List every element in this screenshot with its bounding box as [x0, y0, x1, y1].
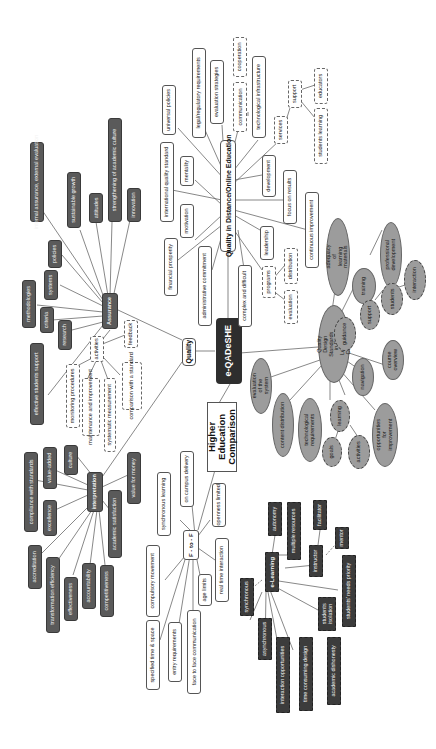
node-programs[interactable]: programs	[262, 266, 276, 298]
node-academic-dishonesty[interactable]: academic dishonesty	[327, 637, 341, 705]
node-training[interactable]: training	[352, 268, 376, 304]
node-learning[interactable]: learning	[330, 400, 350, 432]
node-focus-on-results[interactable]: focus on results	[283, 170, 297, 224]
node-entry-requirements[interactable]: entry requirements	[168, 622, 182, 682]
node-criteria[interactable]: criteria	[40, 307, 54, 333]
node-time-consuming-design[interactable]: time consuming design	[299, 637, 313, 711]
node-systems[interactable]: systems	[44, 270, 58, 300]
node-cooperation[interactable]: cooperation	[233, 37, 247, 77]
node-students-isolation[interactable]: students isolation	[318, 597, 336, 631]
node-interpretation[interactable]: interpretation	[87, 472, 103, 512]
node-competitiveness[interactable]: competitiveness	[100, 565, 114, 617]
node-specified-time-space[interactable]: specified time & space	[146, 620, 160, 690]
node-guidance[interactable]: guidance	[334, 317, 356, 351]
node-autonomy[interactable]: autonomy	[268, 502, 282, 536]
node-accountability[interactable]: accountability	[82, 563, 96, 609]
node-interaction[interactable]: interaction	[404, 260, 426, 300]
node-development[interactable]: development	[262, 155, 276, 197]
node-on-campus-delivery[interactable]: on campus delivery	[180, 451, 194, 507]
node-accreditation[interactable]: accreditation	[28, 545, 42, 589]
node-activities-design[interactable]: activities	[348, 435, 370, 469]
node-evaluation-strategies[interactable]: evaluation strategies	[210, 60, 224, 124]
node-face-to-face-communication[interactable]: face to face communication	[187, 610, 201, 694]
node-synchronous-learning[interactable]: synchronous learning	[157, 472, 171, 536]
node-assurance[interactable]: Assurance	[102, 293, 118, 329]
node-feedback[interactable]: feedback	[124, 320, 138, 348]
node-methodologies[interactable]: methodologies	[22, 280, 36, 328]
node-motivation[interactable]: motivation	[180, 204, 194, 238]
node-facilitator[interactable]: facilitator	[313, 500, 327, 530]
node-monitoring-procedures[interactable]: monitoring procedures	[66, 364, 80, 428]
node-transformation-efficiency[interactable]: transformation efficiency	[46, 557, 60, 633]
node-value-added[interactable]: value-added	[43, 447, 57, 489]
node-value-for-money[interactable]: value for money	[127, 452, 141, 504]
node-excellence[interactable]: excellence	[43, 500, 57, 536]
node-openness-limited[interactable]: openness limited	[212, 483, 226, 527]
node-mentor[interactable]: mentor	[335, 527, 349, 549]
node-academic-satisfaction[interactable]: academic satisfaction	[108, 490, 122, 558]
node-innovation[interactable]: innovation	[127, 188, 141, 222]
node-content-distribution[interactable]: content distribution	[272, 393, 294, 457]
node-opportunities-improvement[interactable]: opportunities for improvement	[372, 403, 398, 467]
node-evaluation[interactable]: evaluation	[284, 290, 298, 324]
node-effectiveness[interactable]: effectiveness	[64, 577, 78, 621]
node-asynchronous[interactable]: asynchronous	[258, 618, 272, 660]
node-evaluation-system[interactable]: evaluation of the system	[250, 358, 272, 414]
node-age-limits[interactable]: age limits	[198, 574, 212, 606]
node-support[interactable]: support	[288, 80, 302, 108]
node-maintenance-improvement[interactable]: maintenance and improvement	[82, 378, 100, 436]
node-comparison-standard[interactable]: comparison with a standard	[122, 362, 142, 410]
center-node-eqadeshe[interactable]: e-QADeSHE	[216, 318, 242, 384]
node-attitudes[interactable]: attitudes	[89, 193, 103, 223]
node-international-quality-standard[interactable]: international quality standard	[160, 142, 174, 222]
node-multiple-resources[interactable]: multiple resources	[287, 502, 301, 560]
node-communication[interactable]: communication	[233, 82, 247, 132]
node-higher-education-comparison[interactable]: Higher Education Comparison	[207, 402, 237, 472]
center-label: e-QADeSHE	[224, 325, 233, 377]
node-instructor[interactable]: instructor	[309, 545, 323, 577]
node-e-learning[interactable]: e-Learning	[265, 552, 279, 592]
node-adequacy-learning-materials[interactable]: adequacy of learning materials	[326, 218, 350, 296]
node-activities[interactable]: activities	[90, 336, 104, 362]
node-face-to-face[interactable]: F - to - F	[183, 530, 199, 560]
node-educators[interactable]: educators	[314, 68, 328, 104]
node-professional-development[interactable]: professional development	[380, 222, 402, 288]
node-sustainable-growth[interactable]: sustainable growth	[67, 172, 81, 228]
node-financial-prosperity[interactable]: financial prosperity	[164, 238, 178, 296]
node-legal-regulatory[interactable]: legal/regulatory requirements	[192, 48, 206, 138]
node-quality-distance-online[interactable]: Quality in Distance/Online Education	[220, 140, 236, 252]
node-course-overview[interactable]: course overview	[382, 340, 404, 380]
node-culture[interactable]: culture	[64, 445, 78, 475]
node-services[interactable]: services	[274, 116, 288, 144]
node-synchronous[interactable]: synchronous	[240, 578, 254, 616]
node-policies[interactable]: policies	[48, 240, 62, 268]
node-mentality[interactable]: mentality	[180, 156, 194, 186]
node-technological-requirements[interactable]: technological requirements	[298, 398, 322, 462]
node-systematic-measurement[interactable]: systematic measurement	[104, 378, 116, 452]
node-compliance-standards[interactable]: compliance with standards	[24, 452, 38, 532]
node-compulsory-movement[interactable]: compulsory movement	[146, 545, 160, 617]
node-distribution[interactable]: distribution	[284, 248, 298, 284]
node-navigation[interactable]: navigation	[352, 358, 374, 396]
node-leadership[interactable]: leadership	[260, 226, 274, 260]
node-technological-infrastructure[interactable]: technological infrastructure	[252, 56, 266, 138]
node-universal-policies[interactable]: universal policies	[162, 85, 176, 135]
node-strengthening-academic-culture[interactable]: strengthening of academic culture	[108, 118, 122, 222]
node-administrative-commitment[interactable]: administrative commitment	[198, 246, 212, 326]
node-continuous-improvement[interactable]: continuous improvement	[305, 192, 319, 268]
node-research[interactable]: research	[58, 320, 72, 350]
node-quality[interactable]: Quality	[182, 338, 196, 366]
node-interaction-opportunities[interactable]: interaction opportunities	[276, 637, 290, 713]
node-students-learning[interactable]: students learning	[314, 108, 328, 164]
node-real-time-interaction[interactable]: real time interaction	[215, 538, 229, 602]
node-support-design[interactable]: support	[360, 300, 380, 330]
node-internal-assurance[interactable]: internal assurance, external evaluation	[30, 142, 44, 222]
node-students[interactable]: students	[381, 283, 403, 315]
node-goals[interactable]: goals	[322, 437, 342, 467]
node-students-needs-priority[interactable]: students' needs priority	[342, 555, 356, 627]
node-effective-students-support[interactable]: effective students support	[30, 343, 44, 425]
node-complex-difficult[interactable]: complex and difficult	[238, 265, 252, 327]
